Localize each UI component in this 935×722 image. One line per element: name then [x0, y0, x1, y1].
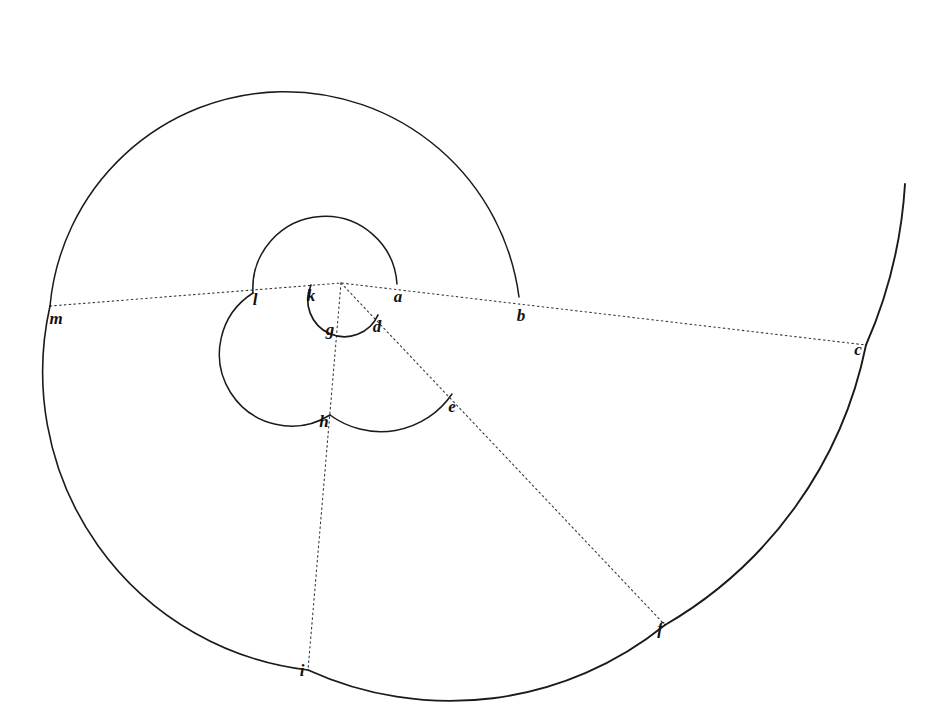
point-label-e: e — [448, 398, 456, 415]
point-label-k: k — [307, 287, 316, 304]
third-arc-upper-left — [50, 92, 519, 306]
point-label-m: m — [49, 310, 62, 327]
point-label-a: a — [394, 288, 403, 305]
point-label-d: d — [373, 318, 382, 335]
second-arc-lower-left — [219, 293, 330, 426]
point-label-b: b — [517, 307, 526, 324]
spiral-arcs-group — [43, 92, 905, 701]
point-label-l: l — [253, 291, 258, 308]
figure-canvas: abcdefghiklm — [0, 0, 935, 722]
outer-arc-right — [665, 345, 866, 625]
outermost-arc-tail — [866, 184, 905, 345]
point-label-h: h — [319, 413, 328, 430]
point-label-i: i — [300, 662, 305, 679]
spiral-diagram-svg — [0, 0, 935, 722]
point-label-f: f — [657, 620, 663, 637]
ray-to-f — [341, 283, 665, 625]
third-arc-lower-left — [43, 306, 308, 670]
point-label-g: g — [326, 321, 335, 338]
ray-to-i — [308, 283, 341, 670]
ray-to-m-and-c — [50, 283, 866, 345]
point-label-c: c — [854, 341, 862, 358]
third-arc-bottom-right — [308, 625, 665, 701]
radiating-rays-group — [50, 283, 866, 670]
second-arc-upper — [253, 216, 397, 293]
second-arc-bottom — [330, 394, 452, 432]
